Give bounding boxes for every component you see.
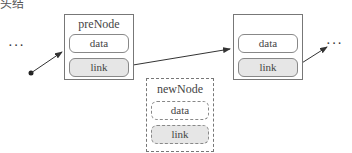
ellipsis-right: ··· [326, 36, 343, 52]
pre-node-title: preNode [65, 17, 133, 32]
new-node-link-field: link [151, 125, 209, 144]
new-node-data-field: data [151, 101, 209, 120]
pre-node-data-field: data [69, 34, 129, 53]
new-node: newNode data link [146, 78, 214, 152]
pre-node: preNode data link [64, 14, 134, 80]
next-node-data-field: data [238, 34, 298, 53]
ellipsis-left: ··· [8, 38, 25, 54]
new-node-title: newNode [147, 82, 213, 97]
pre-node-link-field: link [69, 58, 129, 77]
next-node: data link [233, 14, 303, 80]
next-node-link-field: link [238, 58, 298, 77]
